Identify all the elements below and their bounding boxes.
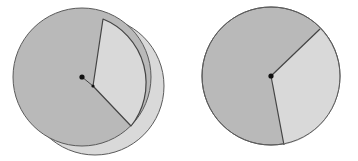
left-pie-center-dot [79,74,84,79]
right-pie [202,7,340,145]
diagram-canvas [0,0,358,161]
left-pie [13,8,164,155]
right-pie-center-dot [268,73,273,78]
left-pie-wedge-apex-dot [91,84,94,87]
pie-comparison-diagram [0,0,358,161]
